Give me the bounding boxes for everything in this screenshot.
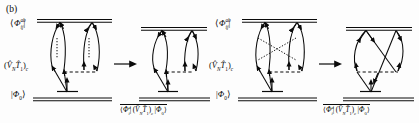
- panel-1-bra-level: [37, 20, 112, 23]
- figure-panel-b: (b) ⟨Φabij| (V̂NT̂1)c |Φ0⟩ ⟨Φabij| (V̂NT…: [0, 0, 419, 123]
- panel-2-ket-level: [139, 98, 210, 101]
- panel-1-left-loop-outer: [51, 23, 60, 67]
- panel-2-bra-level: [141, 28, 207, 31]
- panel-3-ket-level: [238, 98, 317, 101]
- panel-1-right-loop-inner: [92, 23, 99, 72]
- panel-3-bra-level: [242, 20, 317, 23]
- diagram-linework: [0, 0, 419, 123]
- panel-1-uncrossed-dotted: [33, 20, 112, 101]
- panel-4-crossed-solid: [343, 28, 414, 101]
- panel-4-cross-b: [371, 31, 396, 93]
- panel-3-crossed-dotted: [238, 20, 317, 101]
- panel-1-left-loop-inner: [60, 23, 65, 71]
- panel-1-ket-level: [33, 98, 112, 101]
- panel-2-resolved: [139, 28, 210, 101]
- panel-4-bra-level: [346, 28, 412, 31]
- panel-1-right-loop-outer: [84, 23, 92, 71]
- panel-4-ket-level: [343, 98, 414, 101]
